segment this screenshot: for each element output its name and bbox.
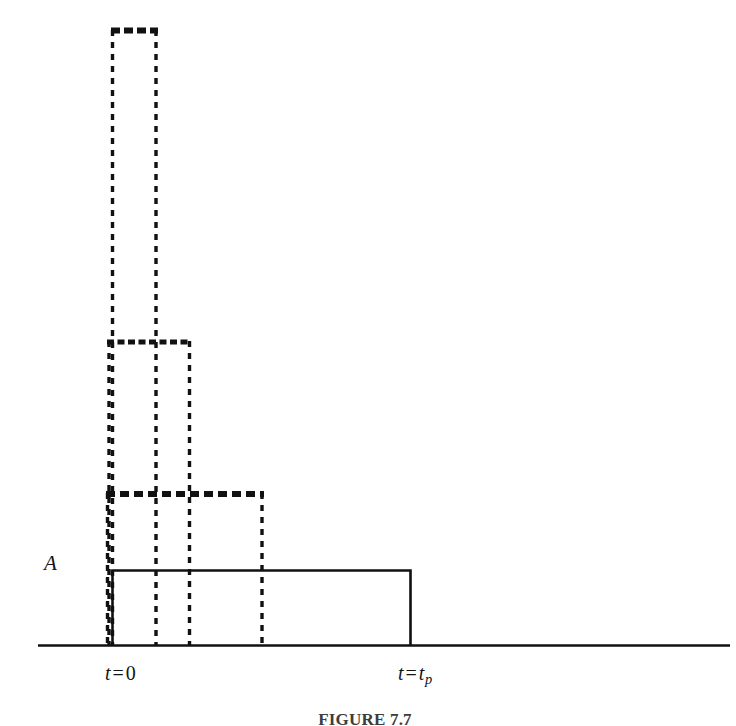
figure-caption: FIGURE 7.7 (0, 710, 736, 726)
figure-caption-number: FIGURE 7.7 (318, 710, 412, 726)
axis-label-t-zero-equals: = (113, 662, 124, 684)
axis-label-t-p-equals: = (406, 662, 417, 684)
axis-label-t-p-variable: t (398, 662, 404, 684)
pulse-waveform-chart (0, 0, 736, 726)
figure-container: A t=0 t=tp FIGURE 7.7 (0, 0, 736, 726)
dashed-pulse-narrow (111, 30, 158, 645)
axis-label-t-p-subscript: p (425, 671, 432, 687)
axis-label-t-zero: t=0 (105, 663, 136, 683)
axis-label-t-zero-value: 0 (126, 662, 136, 684)
axis-label-t-p-value: t (419, 662, 425, 684)
axis-label-t-zero-variable: t (105, 662, 111, 684)
amplitude-label: A (44, 553, 57, 574)
axis-label-t-p: t=tp (398, 663, 432, 683)
dashed-pulse-wide (106, 493, 264, 645)
